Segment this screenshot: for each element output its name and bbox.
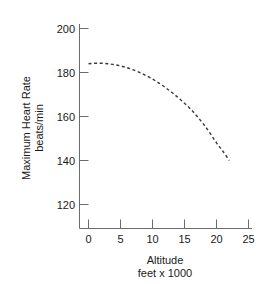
- y-tick-label: 180: [57, 67, 75, 79]
- x-tick-label: 10: [146, 233, 158, 245]
- x-tick-label: 25: [242, 233, 254, 245]
- y-tick-label: 120: [57, 199, 75, 211]
- y-tick-label: 160: [57, 111, 75, 123]
- x-tick-label: 15: [178, 233, 190, 245]
- y-tick-label: 140: [57, 155, 75, 167]
- heart-rate-altitude-chart: 200 180 160 140 120 0 5 10 15 20 25: [0, 0, 266, 284]
- chart-container: 200 180 160 140 120 0 5 10 15 20 25: [0, 0, 266, 284]
- y-axis-title-line2: beats/min: [33, 104, 45, 152]
- y-tick-label: 200: [57, 23, 75, 35]
- x-tick-label: 0: [85, 233, 91, 245]
- x-tick-label: 20: [210, 233, 222, 245]
- y-axis-title-line1: Maximum Heart Rate: [20, 76, 32, 180]
- x-tick-label: 5: [117, 233, 123, 245]
- x-axis-title-line1: Altitude: [147, 254, 184, 266]
- x-axis-title-line2: feet x 1000: [138, 267, 192, 279]
